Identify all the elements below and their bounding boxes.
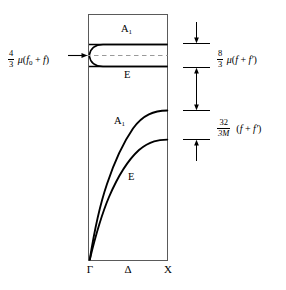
left-plus-sign: + [35, 54, 41, 65]
upper-gap-plus-sign: + [240, 54, 246, 65]
lower-gap-paren-close: ) [258, 123, 261, 134]
left-paren-close: ) [46, 54, 49, 65]
band-label-dispersive-e-text: E [128, 171, 134, 182]
band-label-upper-e-text: E [124, 69, 130, 80]
band-label-dispersive-e: E [128, 172, 134, 183]
axis-tick-delta: Δ [120, 264, 136, 275]
lower-gap-f-symbol: f [240, 123, 243, 134]
upper-gap-fraction: 8 3 [217, 49, 223, 69]
lower-gap-plus-sign: + [245, 123, 251, 134]
lower-gap-numerator: 32 [217, 118, 230, 129]
upper-gap-paren-close: ) [254, 54, 257, 65]
lower-gap-denominator: 3M [217, 129, 230, 139]
left-fraction: 4 3 [8, 49, 14, 69]
left-energy-annotation: 4 3 μ(f0 + f) [8, 49, 49, 69]
left-f0-subscript: 0 [29, 59, 33, 67]
left-level-arrow [68, 53, 88, 58]
axis-tick-gamma: Γ [82, 264, 98, 275]
upper-gap-denominator: 3 [217, 60, 223, 70]
lower-gap-annotation: 32 3M (f + f′) [217, 118, 261, 138]
band-label-upper-a1-text: A [121, 23, 129, 34]
band-structure-figure: 4 3 μ(f0 + f) 8 3 μ(f + f′) 32 3M (f + f… [0, 0, 286, 290]
left-fraction-denominator: 3 [8, 60, 14, 70]
lower-dimension-bracket [183, 89, 210, 161]
upper-dimension-bracket [183, 22, 210, 89]
band-label-dispersive-a1-text: A [114, 115, 122, 126]
band-diagram-canvas [0, 0, 286, 290]
upper-gap-f-symbol: f [235, 54, 238, 65]
band-label-dispersive-a1: A1 [114, 116, 125, 128]
band-label-dispersive-a1-subscript: 1 [122, 120, 126, 128]
band-label-upper-e: E [124, 70, 130, 81]
upper-gap-numerator: 8 [217, 49, 223, 60]
band-label-upper-a1-subscript: 1 [129, 28, 133, 36]
axis-tick-x: X [160, 264, 176, 275]
lower-gap-fraction: 32 3M [217, 118, 230, 138]
left-fraction-numerator: 4 [8, 49, 14, 60]
band-label-upper-a1: A1 [121, 24, 132, 36]
upper-gap-annotation: 8 3 μ(f + f′) [217, 49, 257, 69]
